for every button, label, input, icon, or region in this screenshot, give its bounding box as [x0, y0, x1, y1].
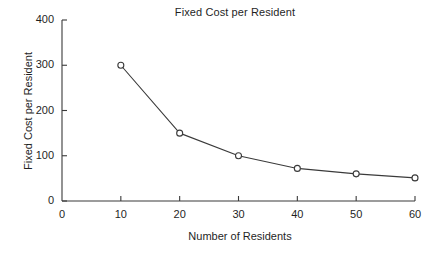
data-line-series [121, 65, 415, 178]
plot-area [0, 0, 439, 253]
data-point-markers [118, 62, 418, 181]
chart-figure: Fixed Cost per Resident Fixed Cost per R… [0, 0, 439, 253]
